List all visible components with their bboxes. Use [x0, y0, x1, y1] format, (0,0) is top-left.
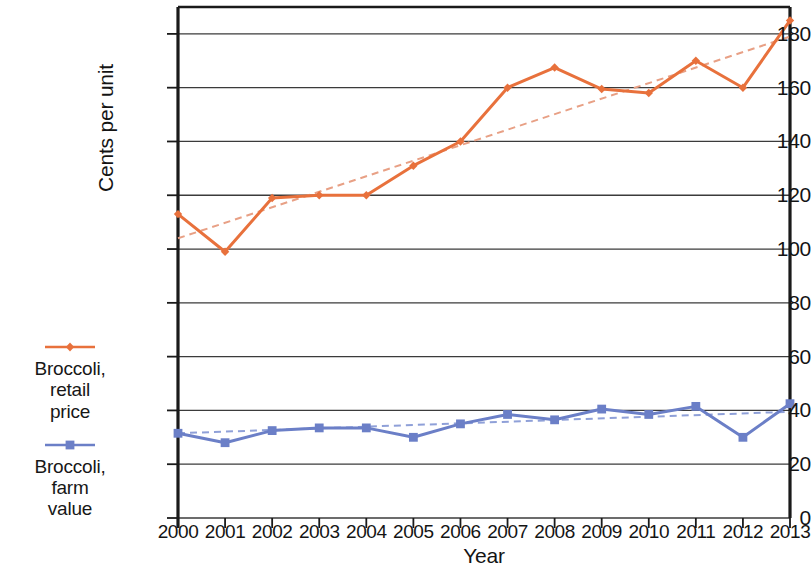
broccoli-price-line-chart: Broccoli, retail price Broccoli, farm va… [0, 0, 811, 573]
legend-label-line: retail [0, 379, 140, 400]
data-point-farm-value [362, 424, 371, 433]
y-axis-title: Cents per unit [94, 0, 118, 192]
data-point-farm-value [409, 433, 418, 442]
data-point-farm-value [786, 399, 795, 408]
plot-frame [178, 7, 790, 528]
data-point-farm-value [739, 433, 748, 442]
legend-label-line: price [0, 401, 140, 422]
trendlines [178, 37, 790, 434]
legend-swatch-retail-price [43, 340, 97, 354]
legend-label-line: farm [0, 477, 140, 498]
data-point-farm-value [503, 410, 512, 419]
data-series [174, 16, 795, 447]
data-point-farm-value [221, 438, 230, 447]
legend-label-retail-price: Broccoli, retail price [0, 358, 140, 422]
series-line-retail-price [178, 20, 790, 251]
legend-label-line: Broccoli, [0, 456, 140, 477]
data-point-farm-value [315, 424, 324, 433]
data-point-farm-value [456, 419, 465, 428]
x-axis-title: Year [178, 544, 790, 568]
data-point-farm-value [550, 415, 559, 424]
legend-label-line: value [0, 498, 140, 519]
gridlines [178, 34, 790, 518]
data-point-farm-value [174, 429, 183, 438]
data-point-farm-value [597, 405, 606, 414]
legend-label-line: Broccoli, [0, 358, 140, 379]
axis-ticks [167, 34, 790, 528]
data-point-farm-value [691, 402, 700, 411]
data-point-farm-value [268, 426, 277, 435]
chart-legend: Broccoli, retail price Broccoli, farm va… [0, 340, 140, 536]
data-point-farm-value [644, 410, 653, 419]
trendline-retail-price [178, 37, 790, 239]
legend-entry-farm-value: Broccoli, farm value [0, 438, 140, 520]
legend-swatch-farm-value [43, 438, 97, 452]
legend-label-farm-value: Broccoli, farm value [0, 456, 140, 520]
legend-entry-retail-price: Broccoli, retail price [0, 340, 140, 422]
